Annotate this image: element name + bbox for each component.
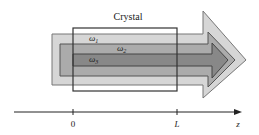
tick-label-L: L	[173, 119, 179, 129]
tick-label-zero: 0	[71, 119, 76, 129]
axis-label-z: z	[235, 119, 240, 129]
three-wave-mixing-diagram: Crystal ω1 ω2 ω3 0 L z	[0, 0, 259, 135]
z-axis-arrowhead-icon	[234, 109, 242, 115]
crystal-label: Crystal	[114, 11, 143, 22]
